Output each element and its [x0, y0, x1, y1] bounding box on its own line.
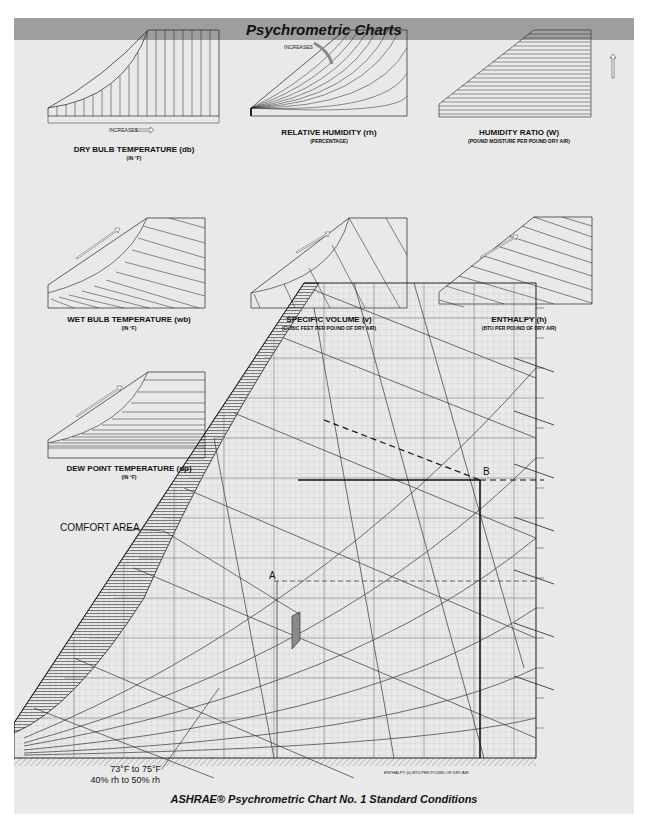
dry-bulb-arrow-label: INCREASES — [109, 127, 139, 133]
caption-humidity-ratio: HUMIDITY RATIO (W) (POUND MOISTURE PER P… — [434, 128, 604, 144]
comfort-note-temp: 73°F to 75°F — [109, 764, 161, 774]
caption-relative-humidity: RELATIVE HUMIDITY (rh) (PERCENTAGE) — [249, 128, 409, 144]
rh-arrow-label: INCREASES — [284, 44, 314, 50]
mini-chart-dry-bulb — [48, 30, 219, 133]
mini-chart-relative-humidity — [251, 30, 407, 116]
enthalpy-axis-label: ENTHALPY (h) BTU PER POUND OF DRY AIR — [384, 770, 469, 775]
mini-chart-wet-bulb — [48, 218, 205, 308]
caption-wet-bulb: WET BULB TEMPERATURE (wb) (IN °F) — [44, 315, 214, 331]
comfort-note-rh: 40% rh to 50% rh — [80, 775, 160, 785]
comfort-area-label: COMFORT AREA — [60, 522, 140, 533]
point-b-label: B — [483, 466, 490, 477]
mini-chart-humidity-ratio — [439, 30, 616, 117]
point-a-label: A — [269, 570, 276, 581]
caption-enthalpy: ENTHALPY (h) (BTU PER POUND OF DRY AIR) — [434, 315, 604, 331]
caption-specific-volume: SPECIFIC VOLUME (v) (CUBIC FEET PER POUN… — [244, 315, 414, 331]
chart-caption: ASHRAE® Psychrometric Chart No. 1 Standa… — [14, 793, 634, 805]
page-panel: Psychrometric Charts — [14, 18, 634, 814]
caption-dry-bulb: DRY BULB TEMPERATURE (db) (IN °F) — [54, 145, 214, 161]
caption-dew-point: DEW POINT TEMPERATURE (dp) (IN °F) — [44, 464, 214, 480]
mini-chart-dew-point — [48, 372, 205, 458]
